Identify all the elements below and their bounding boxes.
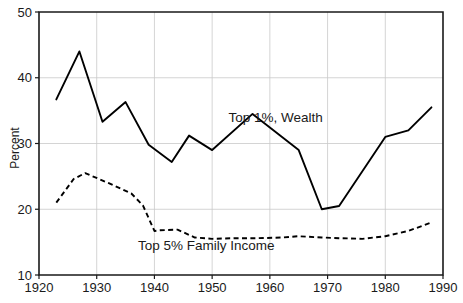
svg-text:Percent: Percent [8, 127, 22, 169]
x-tick-label: 1930 [82, 280, 111, 295]
chart-figure: 1920193019401950196019701980199010203040… [0, 0, 463, 303]
x-tick-label: 1980 [371, 280, 400, 295]
x-tick-label: 1950 [198, 280, 227, 295]
y-axis-title: Percent [8, 127, 22, 169]
y-tick-label: 50 [18, 5, 32, 20]
x-tick-label: 1990 [429, 280, 458, 295]
line-chart: 1920193019401950196019701980199010203040… [0, 0, 463, 303]
x-tick-label: 1940 [140, 280, 169, 295]
y-tick-label: 10 [18, 268, 32, 283]
series-annotation-1: Top 5% Family Income [138, 238, 275, 253]
y-tick-label: 40 [18, 70, 32, 85]
x-tick-label: 1970 [313, 280, 342, 295]
y-tick-label: 20 [18, 202, 32, 217]
x-tick-label: 1960 [255, 280, 284, 295]
plot-background [0, 0, 463, 303]
series-annotation-0: Top 1%, Wealth [228, 110, 322, 125]
